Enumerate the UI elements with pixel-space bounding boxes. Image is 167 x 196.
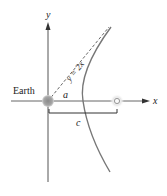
- hyperbola-diagram: y x y = 2x Earth a c: [0, 0, 167, 196]
- y-axis-label: y: [45, 9, 51, 20]
- focal-distance-bracket: [49, 109, 117, 113]
- x-axis: [11, 99, 150, 104]
- hyperbola-branch: [82, 27, 111, 172]
- earth-icon: [42, 95, 54, 107]
- semi-axis-label: a: [63, 89, 68, 100]
- x-axis-arrow-icon: [142, 99, 150, 104]
- earth-label: Earth: [13, 85, 35, 96]
- y-axis-arrow-icon: [46, 22, 51, 30]
- focus-glow: [110, 94, 124, 108]
- x-axis-label: x: [152, 95, 158, 106]
- focal-distance-label: c: [76, 117, 81, 128]
- asymptote-label: y = 2x: [63, 59, 86, 84]
